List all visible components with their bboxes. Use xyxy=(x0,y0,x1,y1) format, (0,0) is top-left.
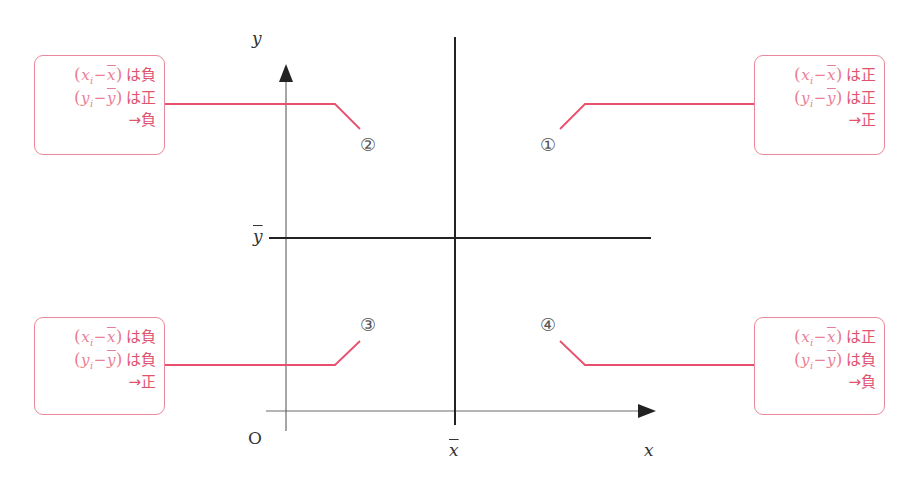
y-deviation-sign: は負 xyxy=(846,350,876,371)
result-row: →正 xyxy=(763,110,876,131)
leader-line-quadrant-2 xyxy=(164,104,360,129)
x-deviation-expr: (xi−x) xyxy=(74,326,123,349)
product-sign-result: →負 xyxy=(128,110,156,131)
x-deviation-expr: (xi−x) xyxy=(74,64,123,87)
leader-line-quadrant-1 xyxy=(560,104,754,129)
x-deviation-row: (xi−x) は正 xyxy=(763,64,876,87)
y-deviation-sign: は正 xyxy=(126,88,156,109)
x-deviation-expr: (xi−x) xyxy=(794,326,843,349)
x-axis-label: x xyxy=(644,440,654,460)
x-deviation-row: (xi−x) は負 xyxy=(43,326,156,349)
quadrant-number-3: ③ xyxy=(360,314,376,335)
y-deviation-row: (yi−y) は負 xyxy=(43,349,156,372)
annotation-box-quadrant-3: (xi−x) は負 (yi−y) は負 →正 xyxy=(34,317,165,415)
x-deviation-row: (xi−x) は負 xyxy=(43,64,156,87)
x-axis-arrow-icon xyxy=(638,404,656,418)
result-row: →負 xyxy=(763,372,876,393)
y-deviation-row: (yi−y) は正 xyxy=(763,87,876,110)
leader-line-quadrant-4 xyxy=(560,341,754,365)
product-sign-result: →正 xyxy=(128,372,156,393)
quadrant-number-1: ① xyxy=(540,134,556,155)
y-axis-arrow-icon xyxy=(279,64,293,82)
product-sign-result: →負 xyxy=(848,372,876,393)
y-deviation-sign: は正 xyxy=(846,88,876,109)
product-sign-result: →正 xyxy=(848,110,876,131)
x-deviation-expr: (xi−x) xyxy=(794,64,843,87)
x-deviation-row: (xi−x) は正 xyxy=(763,326,876,349)
quadrant-number-4: ④ xyxy=(540,314,556,335)
origin-label: O xyxy=(248,428,262,448)
result-row: →正 xyxy=(43,372,156,393)
leader-line-quadrant-3 xyxy=(164,341,360,365)
y-deviation-expr: (yi−y) xyxy=(794,349,843,372)
x-deviation-sign: は負 xyxy=(126,65,156,86)
y-deviation-row: (yi−y) は正 xyxy=(43,87,156,110)
y-deviation-row: (yi−y) は負 xyxy=(763,349,876,372)
result-row: →負 xyxy=(43,110,156,131)
y-mean-label: y xyxy=(253,226,263,246)
y-deviation-sign: は負 xyxy=(126,350,156,371)
y-axis-label: y xyxy=(252,28,262,48)
y-deviation-expr: (yi−y) xyxy=(74,87,123,110)
x-deviation-sign: は負 xyxy=(126,327,156,348)
x-deviation-sign: は正 xyxy=(846,65,876,86)
quadrant-number-2: ② xyxy=(360,134,376,155)
annotation-box-quadrant-2: (xi−x) は負 (yi−y) は正 →負 xyxy=(34,55,165,155)
annotation-box-quadrant-1: (xi−x) は正 (yi−y) は正 →正 xyxy=(754,55,885,155)
y-deviation-expr: (yi−y) xyxy=(74,349,123,372)
x-deviation-sign: は正 xyxy=(846,327,876,348)
y-deviation-expr: (yi−y) xyxy=(794,87,843,110)
annotation-box-quadrant-4: (xi−x) は正 (yi−y) は負 →負 xyxy=(754,317,885,415)
x-mean-label: x xyxy=(449,440,459,460)
